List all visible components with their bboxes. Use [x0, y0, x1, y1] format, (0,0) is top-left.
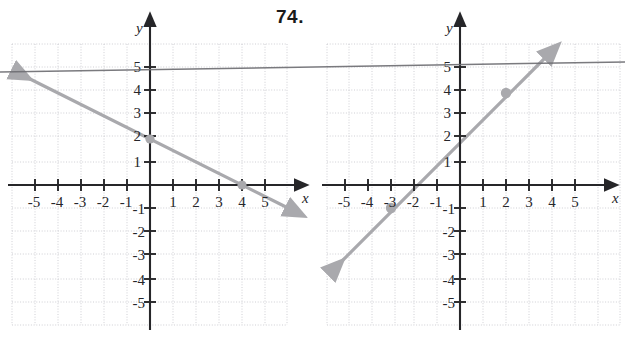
left-y-tick-4: 4	[134, 82, 142, 98]
left-x-tick-3: 3	[215, 194, 223, 210]
left-graph-point-4-0	[237, 180, 246, 189]
left-y-tick--1: -1	[133, 201, 146, 217]
right-x-tick-4: 4	[548, 194, 556, 210]
right-graph-y-axis-label: y	[444, 20, 453, 36]
left-x-tick-1: 1	[169, 194, 177, 210]
graphs-canvas: -5 -4 -3 -2 -1 1 2 3 4 5 5 4 3 2 1 -1 -2…	[0, 0, 625, 339]
right-x-tick--2: -2	[407, 194, 420, 210]
left-x-tick--4: -4	[51, 194, 64, 210]
left-graph-x-axis-label: x	[301, 190, 309, 206]
left-x-tick-2: 2	[192, 194, 200, 210]
right-x-tick-1: 1	[479, 194, 487, 210]
right-y-tick--1: -1	[443, 201, 456, 217]
right-y-tick-4: 4	[444, 82, 452, 98]
right-x-tick--3: -3	[384, 194, 397, 210]
right-x-tick-3: 3	[525, 194, 533, 210]
left-graph-point-0-2	[145, 134, 154, 143]
right-x-tick-2: 2	[502, 194, 510, 210]
right-y-tick-5: 5	[444, 59, 452, 75]
left-x-tick--1: -1	[120, 194, 133, 210]
right-graph-x-axis-label: x	[611, 190, 619, 206]
left-y-tick--2: -2	[133, 224, 146, 240]
left-y-tick--4: -4	[133, 272, 146, 288]
figure-number-label: 74.	[276, 6, 304, 28]
right-y-tick-3: 3	[444, 105, 452, 121]
right-x-tick--5: -5	[338, 194, 351, 210]
left-y-tick--5: -5	[133, 295, 146, 311]
left-y-tick-1: 1	[134, 154, 142, 170]
left-y-tick--3: -3	[133, 247, 146, 263]
right-y-tick--5: -5	[443, 295, 456, 311]
left-x-tick-4: 4	[238, 194, 246, 210]
left-y-tick-5: 5	[134, 59, 142, 75]
figure-container: 74.	[0, 0, 625, 339]
left-x-tick--5: -5	[28, 194, 41, 210]
right-y-tick--2: -2	[443, 224, 456, 240]
left-graph-y-axis-label: y	[134, 20, 143, 36]
right-y-tick--4: -4	[443, 272, 456, 288]
left-x-tick--3: -3	[74, 194, 87, 210]
right-y-tick-1: 1	[444, 154, 452, 170]
right-x-tick--4: -4	[361, 194, 374, 210]
right-graph-plotted-line	[330, 57, 546, 273]
left-x-tick--2: -2	[97, 194, 110, 210]
right-graph-point-2-4	[501, 88, 511, 98]
right-y-tick--3: -3	[443, 247, 456, 263]
left-graph: -5 -4 -3 -2 -1 1 2 3 4 5 5 4 3 2 1 -1 -2…	[8, 20, 309, 330]
left-y-tick-3: 3	[134, 105, 142, 121]
right-graph-axes	[322, 25, 606, 330]
left-y-tick-2: 2	[134, 128, 142, 144]
right-x-tick--1: -1	[430, 194, 443, 210]
left-x-tick-5: 5	[261, 194, 269, 210]
right-x-tick-5: 5	[571, 194, 579, 210]
right-y-tick-2: 2	[444, 128, 452, 144]
